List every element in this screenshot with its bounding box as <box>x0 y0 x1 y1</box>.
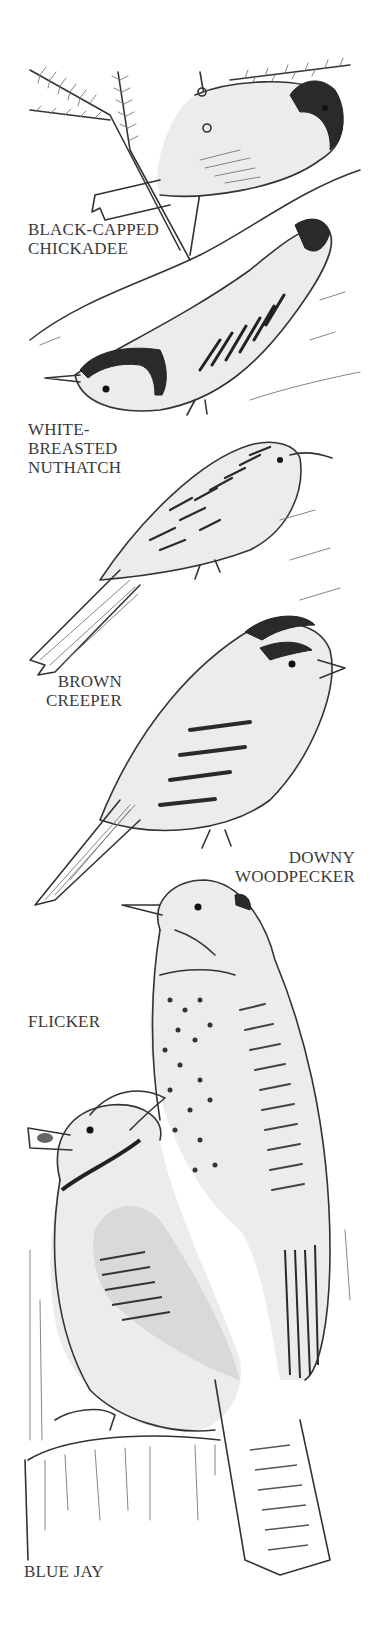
label-line: CREEPER <box>24 691 122 710</box>
label-line: FLICKER <box>28 1012 100 1031</box>
nuthatch-drawing <box>30 170 360 415</box>
label-line: BLUE JAY <box>24 1562 104 1581</box>
label-white-breasted-nuthatch: WHITE- BREASTED NUTHATCH <box>28 420 121 477</box>
label-line: BREASTED <box>28 439 121 458</box>
label-flicker: FLICKER <box>28 1012 100 1031</box>
label-line: NUTHATCH <box>28 458 121 477</box>
label-line: BLACK-CAPPED <box>28 220 159 239</box>
label-line: WOODPECKER <box>195 867 355 886</box>
label-brown-creeper: BROWN CREEPER <box>24 672 122 710</box>
label-line: CHICKADEE <box>28 239 159 258</box>
label-black-capped-chickadee: BLACK-CAPPED CHICKADEE <box>28 220 159 258</box>
label-line: BROWN <box>24 672 122 691</box>
label-blue-jay: BLUE JAY <box>24 1562 104 1581</box>
label-line: DOWNY <box>195 848 355 867</box>
label-downy-woodpecker: DOWNY WOODPECKER <box>195 848 355 886</box>
label-line: WHITE- <box>28 420 121 439</box>
